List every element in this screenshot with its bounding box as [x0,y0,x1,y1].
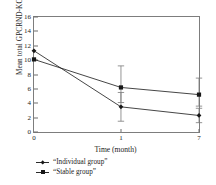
x-axis-tick-label: 7 [197,135,201,142]
legend-diamond-icon [36,158,49,167]
legend-item-label: “Individual group” [53,158,108,168]
y-axis-tick-mark [34,60,38,61]
y-axis-tick-label: 12 [24,42,31,49]
y-axis-tick-label: 10 [24,57,31,64]
series-line [34,59,199,94]
series-line [34,51,199,116]
y-axis-tick-mark [34,103,38,104]
y-axis-tick-mark [34,88,38,89]
y-axis-tick-mark [34,132,38,133]
legend-square-icon [36,168,49,177]
data-series-layer [34,17,199,132]
data-series [32,57,202,106]
y-axis-tick-mark [34,45,38,46]
legend-item[interactable]: “Individual group” [36,158,108,168]
legend-item-label: “Stable group” [53,168,96,178]
data-point-marker [197,93,201,97]
y-axis-tick-mark [34,117,38,118]
x-axis-title: Time (month) [33,145,198,154]
x-axis-tick-mark [120,129,121,133]
y-axis-tick-mark [34,31,38,32]
y-axis-tick-mark [34,17,38,18]
y-axis-tick-label: 2 [28,114,32,121]
x-axis-tick-label: 1 [119,135,123,142]
data-point-marker [119,104,124,109]
chart-legend: “Individual group”“Stable group” [36,158,108,177]
y-axis-tick-label: 16 [24,14,31,21]
y-axis-tick-mark [34,74,38,75]
data-point-marker [197,113,202,118]
data-series [32,48,203,122]
legend-item[interactable]: “Stable group” [36,168,108,178]
y-axis-tick-label: 0 [28,129,32,136]
y-axis-tick-label: 6 [28,85,32,92]
x-axis-tick-label: 0 [32,135,36,142]
x-axis-tick-mark [199,129,200,133]
data-point-marker [119,85,123,89]
y-axis-tick-label: 4 [28,100,32,107]
chart-figure: Mean total GPCRND-KOA 0246810121416 017 … [0,0,216,185]
plot-area: 0246810121416 017 [33,16,200,133]
y-axis-tick-label: 8 [28,71,32,78]
data-point-marker [32,48,37,53]
y-axis-tick-label: 14 [24,28,31,35]
